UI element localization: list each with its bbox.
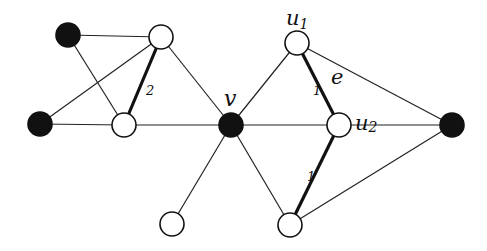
label-u2: u2 bbox=[355, 111, 378, 135]
label-weight-1-upper: 1 bbox=[313, 83, 321, 98]
edge-a-c bbox=[68, 35, 124, 125]
node-black-right bbox=[440, 113, 464, 137]
node-white-bottom-right bbox=[278, 213, 302, 237]
edge-v-u1 bbox=[231, 43, 297, 125]
node-white-middle-left bbox=[112, 113, 136, 137]
node-black-left bbox=[28, 112, 52, 136]
label-weight-2: 2 bbox=[145, 83, 154, 98]
label-edge-e: e bbox=[331, 65, 343, 89]
labels: v u1 u2 e 2 1 1 bbox=[145, 6, 378, 184]
edge-b-v bbox=[161, 37, 231, 125]
node-black-top-left bbox=[56, 23, 80, 47]
nodes bbox=[28, 23, 464, 237]
node-white-top-left bbox=[149, 25, 173, 49]
node-v bbox=[219, 113, 243, 137]
node-white-bottom-left bbox=[160, 212, 184, 236]
label-weight-1-lower: 1 bbox=[307, 169, 315, 184]
node-u1 bbox=[285, 31, 309, 55]
edge-a-b bbox=[68, 35, 161, 37]
label-v: v bbox=[224, 86, 237, 111]
edges bbox=[40, 35, 452, 225]
label-u1-subscript: 1 bbox=[300, 16, 309, 32]
label-u2-subscript: 2 bbox=[368, 119, 378, 135]
edge-v-bottom-right bbox=[231, 125, 290, 225]
edge-v-bottom-left bbox=[172, 125, 231, 224]
graph-diagram: v u1 u2 e 2 1 1 bbox=[0, 0, 487, 251]
node-u2 bbox=[327, 113, 351, 137]
label-u1: u1 bbox=[286, 6, 308, 32]
